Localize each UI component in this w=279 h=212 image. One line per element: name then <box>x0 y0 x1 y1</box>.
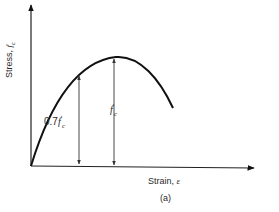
x-axis-label: Strain, ε <box>148 176 180 186</box>
stress-strain-curve <box>31 57 173 166</box>
y-axis-label: Stress, fc <box>4 42 17 78</box>
label-0.7fc: 0.7f′c <box>44 115 65 130</box>
label-fc: f′c <box>110 103 117 118</box>
stress-strain-diagram <box>0 0 279 212</box>
figure-caption: (a) <box>160 193 171 203</box>
x-axis <box>31 166 254 168</box>
